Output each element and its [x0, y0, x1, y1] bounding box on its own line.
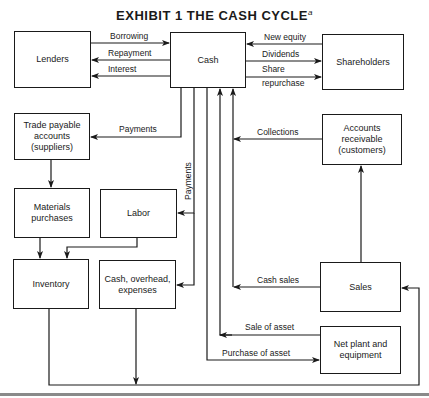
node-label: Trade payable accounts (suppliers) [17, 120, 87, 153]
node-label: Materials purchases [17, 202, 87, 224]
node-plant: Net plant and equipment [320, 326, 401, 374]
node-cash: Cash [170, 32, 246, 88]
node-label: Lenders [36, 54, 69, 65]
arrow-labor-to-inventory [67, 238, 137, 258]
node-label: Sales [349, 282, 372, 293]
label-dividends: Dividends [262, 49, 299, 59]
label-cash-sales: Cash sales [257, 275, 299, 285]
node-label: Labor [127, 208, 150, 219]
footnote-marker: a [308, 8, 313, 17]
label-share-repurchase-1: Share [262, 64, 285, 74]
node-label: Shareholders [336, 57, 390, 68]
label-interest: Interest [108, 64, 136, 74]
title-text: EXHIBIT 1 THE CASH CYCLE [116, 8, 308, 23]
label-payments-labor: Payments [183, 162, 193, 200]
label-purchase-of-asset: Purchase of asset [222, 348, 290, 358]
label-sale-of-asset: Sale of asset [245, 322, 294, 332]
node-shareholders: Shareholders [322, 34, 404, 90]
label-payments-suppliers: Payments [119, 124, 157, 134]
label-repayment: Repayment [108, 48, 151, 58]
label-collections: Collections [257, 127, 299, 137]
node-labor: Labor [100, 189, 177, 238]
node-inventory: Inventory [13, 259, 89, 309]
label-new-equity: New equity [264, 32, 306, 42]
node-label: Cash, overhead, expenses [102, 274, 173, 296]
node-sales: Sales [320, 262, 401, 312]
node-materials: Materials purchases [14, 188, 90, 238]
node-label: Net plant and equipment [323, 339, 398, 361]
node-accounts-receivable: Accounts receivable (customers) [322, 114, 402, 165]
page-rule [0, 393, 429, 396]
node-lenders: Lenders [14, 31, 91, 88]
node-label: Cash [197, 55, 218, 66]
node-label: Inventory [32, 279, 69, 290]
arrow-payments-overhead [177, 213, 194, 285]
label-share-repurchase-2: repurchase [262, 78, 305, 88]
exhibit-title: EXHIBIT 1 THE CASH CYCLEa [0, 8, 429, 23]
arrow-sale-of-asset [220, 89, 320, 335]
node-overhead: Cash, overhead, expenses [99, 260, 176, 309]
label-borrowing: Borrowing [110, 31, 148, 41]
node-label: Accounts receivable (customers) [325, 123, 399, 156]
node-trade-payable: Trade payable accounts (suppliers) [14, 113, 90, 160]
